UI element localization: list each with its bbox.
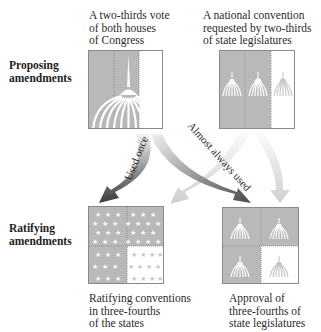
svg-text:★: ★ [105,229,111,237]
svg-text:★: ★ [150,211,156,219]
svg-text:★: ★ [149,275,155,283]
ratifying-conventions-box: ★★★★★★ ★★★★★★★ ★★★★★★ ★★★★★★★ ★★★ ★★★ ★★… [88,206,164,284]
svg-text:★: ★ [140,229,146,237]
svg-text:★: ★ [105,275,111,283]
svg-text:★: ★ [130,229,136,237]
svg-text:★: ★ [95,251,101,259]
svg-text:★: ★ [92,263,98,271]
svg-text:★: ★ [95,211,101,219]
svg-text:★: ★ [137,263,143,271]
svg-text:★: ★ [157,275,163,283]
caption-ratifying-conventions: Ratifying conventions in three-fourths o… [89,292,191,330]
svg-text:★: ★ [155,220,161,228]
svg-text:★: ★ [115,251,121,259]
svg-text:★: ★ [92,238,98,246]
svg-text:★: ★ [112,238,118,246]
caption-line: Ratifying conventions [89,292,191,305]
svg-text:★: ★ [155,238,161,246]
caption-line: of the states [89,317,191,330]
svg-text:★: ★ [157,251,163,259]
svg-text:★: ★ [130,211,136,219]
caption-line: Approval of [229,292,305,305]
caption-state-legislatures: Approval of three-fourths of state legis… [229,292,305,330]
svg-text:★: ★ [115,275,121,283]
caption-line: three-fourths of [229,305,305,318]
svg-text:★: ★ [146,263,152,271]
caption-line: state legislatures [229,317,305,330]
svg-text:★: ★ [102,238,108,246]
svg-text:★: ★ [95,229,101,237]
svg-text:★: ★ [105,211,111,219]
svg-text:★: ★ [149,251,155,259]
svg-text:★: ★ [112,220,118,228]
svg-text:★: ★ [125,220,131,228]
svg-text:★: ★ [125,238,131,246]
svg-text:★: ★ [105,251,111,259]
svg-text:★: ★ [145,220,151,228]
svg-text:★: ★ [102,263,108,271]
svg-text:★: ★ [135,220,141,228]
svg-text:★: ★ [102,220,108,228]
svg-text:★: ★ [112,263,118,271]
svg-text:★: ★ [135,238,141,246]
svg-text:★: ★ [92,220,98,228]
arrow-convention-to-legislatures [254,134,290,203]
capitol-dome-icon [223,208,299,284]
svg-text:★: ★ [145,238,151,246]
svg-text:★: ★ [128,263,134,271]
state-legislatures-box [222,207,299,284]
svg-text:★: ★ [140,251,146,259]
svg-text:★: ★ [115,211,121,219]
svg-text:★: ★ [150,229,156,237]
svg-text:★: ★ [131,275,137,283]
svg-text:★: ★ [131,251,137,259]
svg-text:★: ★ [140,275,146,283]
svg-text:★: ★ [155,263,161,271]
svg-text:★: ★ [115,229,121,237]
svg-text:★: ★ [140,211,146,219]
svg-text:★: ★ [95,275,101,283]
star-icon: ★★★★★★ ★★★★★★★ ★★★★★★ ★★★★★★★ ★★★ ★★★ ★★… [89,207,164,284]
caption-line: in three-fourths [89,305,191,318]
